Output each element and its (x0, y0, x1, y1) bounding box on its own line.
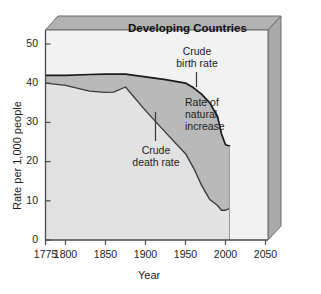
y-axis-title: Rate per 1,000 people (12, 101, 24, 210)
x-axis-title: Year (138, 270, 160, 282)
chart-figure: Developing Countries 50 40 30 20 10 0 17… (0, 0, 321, 294)
annotation-natural-increase-line2: natural (185, 109, 217, 120)
x-tick-1800: 1800 (47, 249, 84, 260)
annotation-natural-increase-line1: Rate of (185, 97, 219, 108)
x-tick-1850: 1850 (87, 249, 124, 260)
annotation-crude-death-rate-line2: death rate (120, 157, 192, 168)
y-tick-40: 40 (14, 77, 38, 88)
x-tick-1900: 1900 (127, 249, 164, 260)
annotation-crude-birth-rate-line1: Crude (166, 46, 228, 57)
x-axis-ticks (46, 240, 266, 245)
y-tick-0: 0 (14, 234, 38, 245)
x-tick-2050: 2050 (247, 249, 284, 260)
box-right-face (268, 16, 281, 240)
y-tick-50: 50 (14, 38, 38, 49)
x-tick-1950: 1950 (167, 249, 204, 260)
page-title: Developing Countries (128, 22, 247, 34)
annotation-natural-increase-line3: increase (185, 121, 225, 132)
annotation-crude-death-rate-line1: Crude (125, 145, 187, 156)
annotation-crude-birth-rate-line2: birth rate (162, 58, 232, 69)
x-tick-2000: 2000 (207, 249, 244, 260)
